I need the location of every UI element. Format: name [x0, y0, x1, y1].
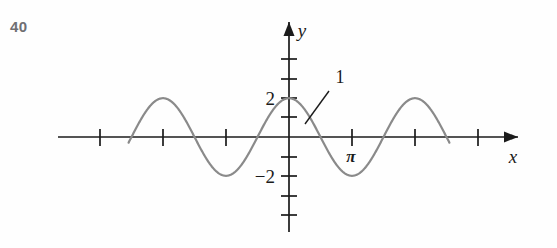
callout-leader-line — [305, 91, 329, 124]
y-axis — [284, 22, 295, 232]
y-tick-label-2: 2 — [266, 88, 276, 109]
x-tick-label-pi: π — [346, 147, 356, 166]
y-tick-label-negative-2: −2 — [255, 166, 275, 187]
y-axis-label: y — [296, 20, 307, 41]
callout-label-1: 1 — [336, 67, 345, 87]
graph-plot: y x 2 −2 π 1 — [0, 0, 557, 248]
x-axis-label: x — [508, 146, 518, 167]
y-axis-arrowhead — [284, 22, 295, 36]
x-axis-arrowhead — [504, 132, 518, 143]
figure-container: 40 — [0, 0, 557, 248]
